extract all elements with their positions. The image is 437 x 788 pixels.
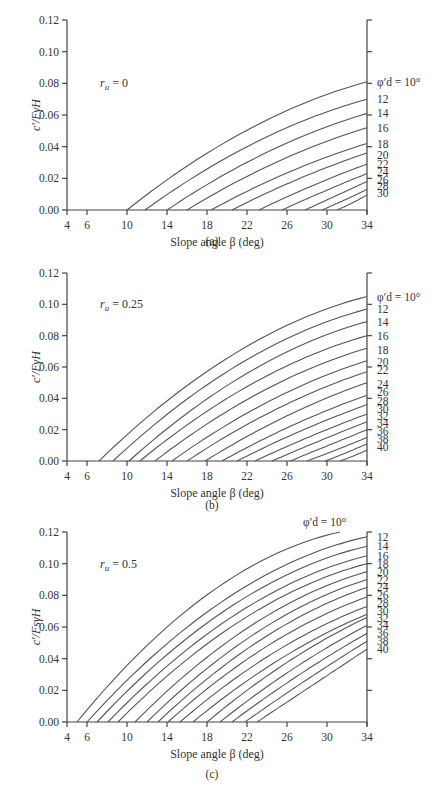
- ru-label: ru = 0.25: [100, 297, 143, 313]
- x-tick-label: 26: [281, 470, 293, 482]
- y-tick-label: 0.12: [39, 14, 59, 26]
- curve-label: 30: [377, 187, 389, 199]
- panel-caption: (a): [206, 235, 219, 248]
- curve-phi-40: [340, 450, 367, 461]
- curve-phi-30: [337, 195, 367, 210]
- y-tick-label: 0.00: [39, 204, 59, 216]
- curve-phi-34: [290, 430, 367, 461]
- y-tick-label: 0.02: [39, 172, 59, 184]
- x-tick-label: 30: [321, 731, 333, 743]
- x-tick-label: 6: [84, 731, 90, 743]
- curve-phi-36: [307, 438, 367, 462]
- chart-panel-b: 0.000.020.040.060.080.100.12461014182226…: [0, 253, 437, 518]
- x-tick-label: 34: [361, 470, 373, 482]
- x-tick-label: 6: [84, 219, 90, 231]
- x-tick-label: 4: [64, 470, 70, 482]
- x-tick-label: 4: [64, 731, 70, 743]
- x-tick-label: 18: [201, 731, 213, 743]
- x-tick-label: 30: [321, 219, 333, 231]
- y-tick-label: 0.04: [39, 141, 59, 153]
- curve-label: 40: [377, 441, 389, 453]
- curve-label: 12: [377, 303, 389, 315]
- curve-phi-16: [187, 128, 367, 210]
- curve-phi-16: [140, 336, 367, 461]
- x-tick-label: 26: [281, 731, 293, 743]
- y-tick-label: 0.10: [39, 46, 59, 58]
- curve-label: 16: [377, 330, 389, 342]
- y-tick-label: 0.02: [39, 424, 59, 436]
- y-tick-label: 0.02: [39, 684, 59, 696]
- x-tick-label: 10: [121, 470, 133, 482]
- curve-phi-14: [97, 546, 367, 722]
- y-tick-label: 0.00: [39, 716, 59, 728]
- panel-caption: (c): [206, 768, 219, 781]
- y-tick-label: 0.00: [39, 455, 59, 467]
- ru-label: ru = 0: [100, 76, 128, 92]
- curve-label-top: φ′d = 10°: [303, 516, 347, 529]
- y-axis-title: c′/FγH: [29, 350, 43, 383]
- y-tick-label: 0.10: [39, 558, 59, 570]
- x-tick-label: 22: [241, 731, 253, 743]
- x-tick-label: 10: [121, 219, 133, 231]
- y-tick-label: 0.04: [39, 653, 59, 665]
- curve-label: 40: [377, 643, 389, 655]
- x-tick-label: 18: [201, 470, 213, 482]
- y-tick-label: 0.12: [39, 526, 59, 538]
- y-tick-label: 0.12: [39, 267, 59, 279]
- y-tick-label: 0.04: [39, 392, 59, 404]
- chart-panel-a: 0.000.020.040.060.080.100.12461014182226…: [0, 0, 437, 260]
- x-tick-label: 34: [361, 219, 373, 231]
- curve-phi-40: [257, 649, 367, 722]
- x-tick-label: 18: [201, 219, 213, 231]
- x-tick-label: 30: [321, 470, 333, 482]
- x-tick-label: 26: [281, 219, 293, 231]
- x-tick-label: 22: [241, 470, 253, 482]
- chart-panel-c: 0.000.020.040.060.080.100.12461014182226…: [0, 512, 437, 788]
- curve-phi-22: [187, 372, 367, 461]
- curve-label: φ′d = 10°: [377, 291, 421, 304]
- x-tick-label: 14: [161, 219, 173, 231]
- curve-label: φ′d = 10°: [377, 76, 421, 89]
- ru-label: ru = 0.5: [100, 557, 137, 573]
- x-tick-label: 14: [161, 731, 173, 743]
- curve-label: 14: [377, 107, 389, 119]
- x-axis-title: Slope angle β (deg): [170, 486, 264, 500]
- curve-phi-38: [245, 641, 367, 722]
- y-axis-title: c′/FγH: [29, 98, 43, 131]
- curve-phi-32: [207, 618, 367, 723]
- y-axis-title: c′/FsγH: [29, 607, 43, 645]
- x-tick-label: 22: [241, 219, 253, 231]
- curve-phi-14: [129, 322, 367, 461]
- y-tick-label: 0.08: [39, 589, 59, 601]
- x-axis-title: Slope angle β (deg): [170, 747, 264, 761]
- y-tick-label: 0.10: [39, 298, 59, 310]
- curve-phi-24: [282, 174, 367, 210]
- curve-label: 18: [377, 344, 389, 356]
- curve-phi-12: [113, 309, 367, 461]
- x-tick-label: 14: [161, 470, 173, 482]
- curve-label: 12: [377, 93, 389, 105]
- x-tick-label: 6: [84, 470, 90, 482]
- curve-phi-28: [180, 606, 367, 722]
- y-tick-label: 0.08: [39, 77, 59, 89]
- curve-label: 22: [377, 364, 389, 376]
- curve-phi-30: [255, 414, 367, 461]
- curve-phi-24: [205, 383, 367, 461]
- panel-caption: (b): [205, 499, 219, 512]
- x-tick-label: 34: [361, 731, 373, 743]
- x-tick-label: 4: [64, 219, 70, 231]
- x-tick-label: 10: [121, 731, 133, 743]
- curve-phi-18: [118, 564, 367, 722]
- y-tick-label: 0.08: [39, 330, 59, 342]
- curve-label: 16: [377, 122, 389, 134]
- curve-label: 14: [377, 316, 389, 328]
- curve-phi-10: [127, 82, 367, 210]
